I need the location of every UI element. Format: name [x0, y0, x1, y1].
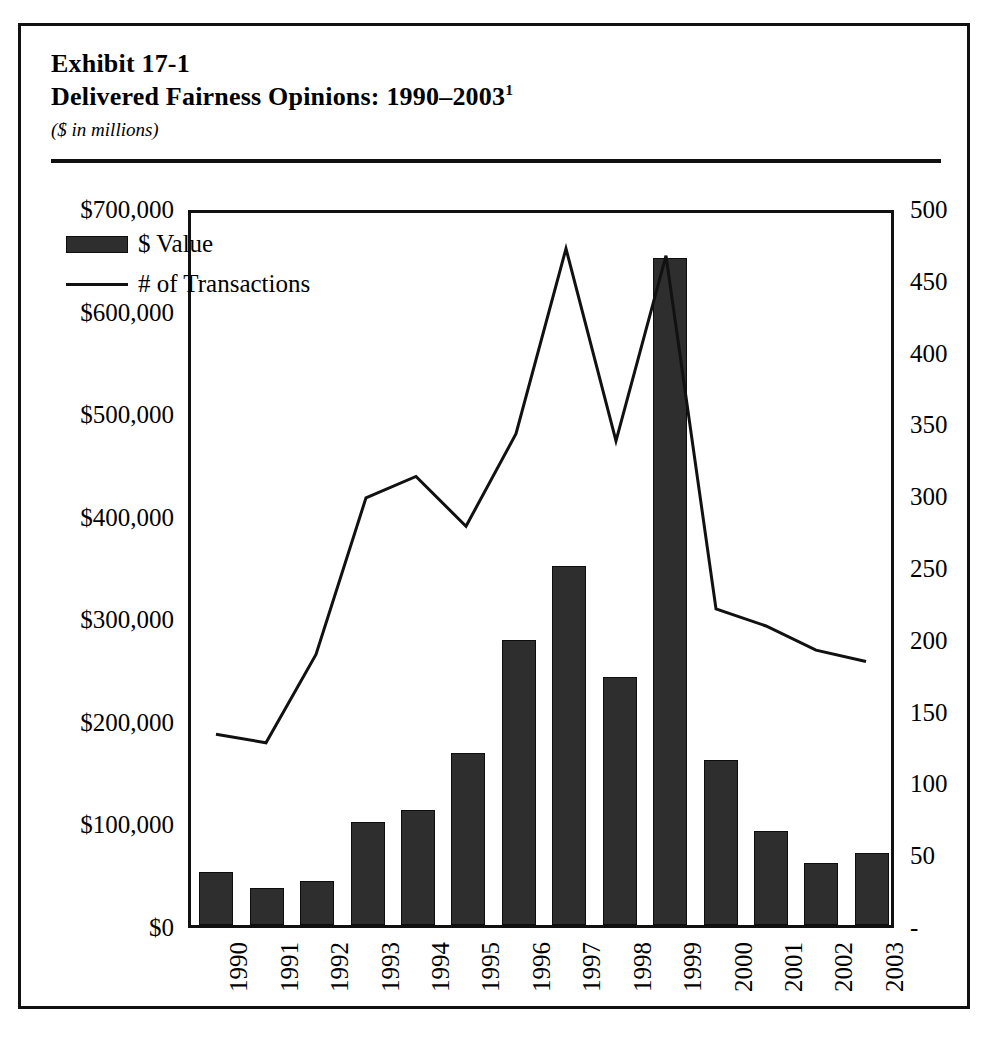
exhibit-units-note: ($ in millions) — [51, 119, 941, 141]
bar-1990 — [199, 872, 233, 925]
chart-legend: $ Value # of Transactions — [66, 224, 396, 304]
x-axis-ticks: 1990199119921993199419951996199719981999… — [188, 936, 894, 1046]
x-tick-1999: 1999 — [679, 942, 707, 992]
y-right-tick-50: 50 — [910, 842, 935, 870]
bar-1993 — [351, 822, 385, 925]
x-tick-2001: 2001 — [780, 942, 808, 992]
y-right-tick-500: 500 — [910, 196, 948, 224]
y-right-tick-250: 250 — [910, 555, 948, 583]
y-left-tick-0: $0 — [149, 914, 174, 942]
bar-1992 — [300, 881, 334, 925]
y-right-tick-400: 400 — [910, 340, 948, 368]
x-tick-1995: 1995 — [477, 942, 505, 992]
y-axis-right-ticks: -50100150200250300350400450500 — [910, 176, 970, 1006]
y-left-tick-100000: $100,000 — [80, 811, 174, 839]
bar-2001 — [754, 831, 788, 925]
bar-2002 — [804, 863, 838, 925]
bar-2000 — [704, 760, 738, 925]
x-tick-2003: 2003 — [881, 942, 909, 992]
y-right-tick-100: 100 — [910, 770, 948, 798]
y-left-tick-500000: $500,000 — [80, 401, 174, 429]
x-tick-2000: 2000 — [730, 942, 758, 992]
bar-2003 — [855, 853, 889, 925]
y-left-tick-700000: $700,000 — [80, 196, 174, 224]
bar-1999 — [653, 258, 687, 925]
line-swatch-icon — [66, 283, 128, 286]
exhibit-number: Exhibit 17-1 — [51, 48, 941, 80]
bar-1997 — [552, 566, 586, 925]
bar-1998 — [603, 677, 637, 925]
x-tick-1994: 1994 — [427, 942, 455, 992]
x-tick-1991: 1991 — [276, 942, 304, 992]
legend-item-value: $ Value — [66, 224, 396, 264]
exhibit-title-text: Delivered Fairness Opinions: 1990–2003 — [51, 81, 505, 110]
x-tick-1996: 1996 — [528, 942, 556, 992]
legend-item-transactions: # of Transactions — [66, 264, 396, 304]
y-right-tick-200: 200 — [910, 627, 948, 655]
y-right-tick-300: 300 — [910, 483, 948, 511]
x-tick-1998: 1998 — [629, 942, 657, 992]
bar-1994 — [401, 810, 435, 925]
y-right-tick-0: - — [910, 914, 918, 942]
exhibit-frame: Exhibit 17-1 Delivered Fairness Opinions… — [18, 23, 970, 1009]
y-right-tick-350: 350 — [910, 411, 948, 439]
y-right-tick-150: 150 — [910, 699, 948, 727]
x-tick-1997: 1997 — [578, 942, 606, 992]
header-divider-rule — [51, 159, 941, 163]
bars-layer — [191, 213, 891, 925]
bar-1995 — [451, 753, 485, 925]
bar-swatch-icon — [66, 236, 128, 253]
exhibit-title-footnote-marker: 1 — [505, 81, 513, 98]
chart-canvas: $0$100,000$200,000$300,000$400,000$500,0… — [21, 176, 967, 1006]
y-left-tick-400000: $400,000 — [80, 504, 174, 532]
y-right-tick-450: 450 — [910, 268, 948, 296]
bar-1996 — [502, 640, 536, 925]
x-tick-1990: 1990 — [225, 942, 253, 992]
y-left-tick-200000: $200,000 — [80, 709, 174, 737]
x-tick-1993: 1993 — [377, 942, 405, 992]
exhibit-title: Delivered Fairness Opinions: 1990–20031 — [51, 80, 941, 112]
x-tick-1992: 1992 — [326, 942, 354, 992]
exhibit-header: Exhibit 17-1 Delivered Fairness Opinions… — [51, 48, 941, 141]
bar-1991 — [250, 888, 284, 925]
plot-area — [188, 210, 894, 928]
legend-label-transactions: # of Transactions — [138, 270, 310, 298]
legend-label-value: $ Value — [138, 230, 213, 258]
x-tick-2002: 2002 — [830, 942, 858, 992]
y-left-tick-300000: $300,000 — [80, 606, 174, 634]
